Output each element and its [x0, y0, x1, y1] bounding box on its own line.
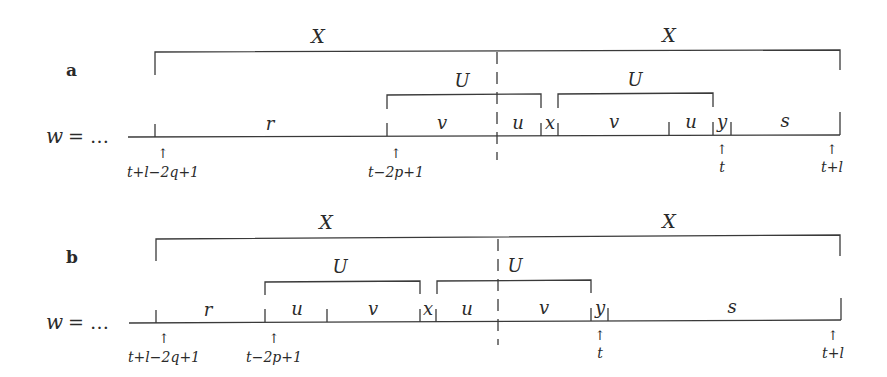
equals-ellipsis-a: = … — [68, 125, 109, 147]
u-bracket-1-b — [265, 281, 420, 295]
segment-r-b: r — [204, 299, 214, 320]
arrow-up-icon: ↑ — [159, 331, 170, 346]
arrow-up-icon: ↑ — [158, 146, 169, 161]
arrow-up-icon: ↑ — [828, 328, 839, 343]
position-label-start-b: t+l−2q+1 — [128, 349, 200, 365]
position-label-t-a: t — [719, 159, 725, 175]
u-bracket-2-b — [437, 280, 591, 294]
u-label-1-b: U — [332, 256, 348, 277]
segment-u1-a: u — [512, 112, 524, 133]
segment-v2-a: v — [609, 111, 619, 132]
segment-r-a: r — [266, 113, 276, 134]
segment-u2-a: u — [685, 111, 697, 132]
arrow-up-icon: ↑ — [595, 328, 606, 343]
u-label-2-a: U — [627, 69, 643, 90]
w-symbol-a: w — [46, 124, 63, 148]
segment-x-a: x — [545, 112, 555, 133]
segment-v1-a: v — [437, 112, 447, 133]
x-label-right-a: X — [660, 24, 677, 46]
u-bracket-1-a — [387, 94, 541, 109]
arrow-up-icon: ↑ — [391, 146, 402, 161]
panel-b: b X X U U w = … r u v x u — [46, 210, 844, 365]
equals-ellipsis-b: = … — [68, 311, 109, 333]
x-label-left-a: X — [309, 25, 326, 47]
segment-u2-b: u — [461, 298, 473, 319]
position-label-t-b: t — [597, 345, 603, 361]
word-line-a — [128, 135, 840, 137]
segment-v1-b: v — [368, 298, 378, 319]
position-label-period-a: t−2p+1 — [368, 164, 424, 180]
arrow-up-icon: ↑ — [269, 331, 280, 346]
word-line-b — [129, 320, 841, 323]
segment-v2-b: v — [539, 297, 549, 318]
arrow-up-icon: ↑ — [717, 142, 728, 157]
panel-a: a X X U U w = … r v u x v — [46, 24, 843, 180]
arrow-up-icon: ↑ — [827, 142, 838, 157]
panel-label-b: b — [66, 247, 78, 267]
segment-u1-b: u — [291, 298, 303, 319]
x-label-right-b: X — [660, 210, 677, 232]
segment-y-b: y — [594, 297, 606, 318]
panel-label-a: a — [66, 60, 77, 80]
position-label-end-a: t+l — [821, 159, 843, 175]
position-label-end-b: t+l — [822, 345, 844, 361]
w-symbol-b: w — [46, 310, 63, 334]
u-bracket-2-a — [558, 93, 713, 108]
segment-y-a: y — [716, 111, 728, 132]
x-label-left-b: X — [317, 211, 334, 233]
u-label-2-b: U — [507, 255, 523, 276]
segment-s-a: s — [780, 110, 789, 131]
segment-s-b: s — [727, 296, 736, 317]
string-period-diagram: a X X U U w = … r v u x v — [0, 0, 887, 377]
u-label-1-a: U — [454, 70, 470, 91]
position-label-start-a: t+l−2q+1 — [127, 164, 199, 180]
segment-x-b: x — [423, 298, 433, 319]
position-label-period-b: t−2p+1 — [246, 349, 302, 365]
